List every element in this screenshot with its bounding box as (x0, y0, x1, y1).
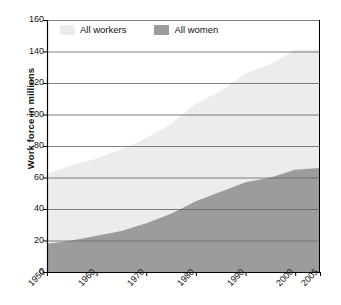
legend-label-all-workers: All workers (80, 24, 126, 35)
x-tick-label: 1960 (76, 267, 97, 288)
chart-legend: All workers All women (60, 24, 218, 35)
x-tick-label: 1980 (175, 267, 196, 288)
x-axis-tick-labels: 1950196019701980199020002005 (0, 0, 341, 305)
x-tick-label: 1970 (125, 267, 146, 288)
legend-swatch-all-workers (60, 25, 75, 35)
legend-swatch-all-women (154, 25, 169, 35)
x-tick-label: 2005 (299, 267, 320, 288)
x-tick-label: 1950 (26, 267, 47, 288)
legend-item-all-women: All women (154, 24, 218, 35)
legend-label-all-women: All women (174, 24, 218, 35)
area-chart: Work force in millions 02040608010012014… (0, 0, 341, 305)
legend-item-all-workers: All workers (60, 24, 126, 35)
x-tick-label: 1990 (225, 267, 246, 288)
x-tick-label: 2000 (274, 267, 295, 288)
